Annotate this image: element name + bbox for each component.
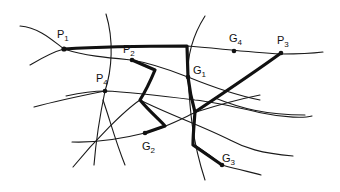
node-p2 — [130, 58, 135, 63]
label-g1: G1 — [193, 65, 206, 79]
label-subscript: 1 — [64, 34, 68, 43]
node-g1 — [186, 75, 191, 80]
label-subscript: 1 — [202, 70, 206, 79]
node-g2 — [143, 131, 148, 136]
label-subscript: 2 — [130, 49, 134, 58]
label-letter: G — [142, 140, 151, 152]
label-p3: P3 — [277, 35, 289, 49]
node-p3 — [279, 51, 284, 56]
highlighted-routes — [64, 46, 281, 165]
label-letter: G — [193, 64, 202, 76]
label-p1: P1 — [57, 29, 69, 43]
label-subscript: 3 — [284, 40, 288, 49]
node-g4 — [232, 49, 237, 54]
label-p4: P4 — [96, 73, 108, 87]
nodes — [61, 46, 283, 167]
label-subscript: 4 — [103, 78, 107, 87]
label-subscript: 3 — [231, 158, 235, 167]
label-g3: G3 — [222, 153, 235, 167]
label-p2: P2 — [123, 44, 135, 58]
label-letter: G — [222, 152, 231, 164]
node-p1 — [61, 46, 66, 51]
label-subscript: 2 — [151, 146, 155, 155]
label-g4: G4 — [229, 33, 242, 47]
label-g2: G2 — [142, 141, 155, 155]
node-p4 — [103, 89, 108, 94]
label-subscript: 4 — [238, 38, 242, 47]
network-diagram — [0, 0, 340, 192]
label-letter: G — [229, 32, 238, 44]
